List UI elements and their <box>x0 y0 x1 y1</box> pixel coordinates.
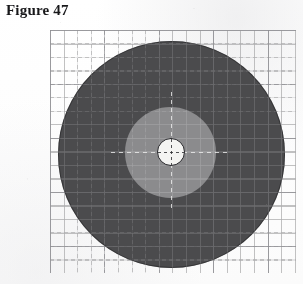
figure-page: Figure 47 <box>0 0 303 284</box>
hole-crosshair-horizontal-line <box>158 152 184 153</box>
figure-caption: Figure 47 <box>6 2 69 19</box>
